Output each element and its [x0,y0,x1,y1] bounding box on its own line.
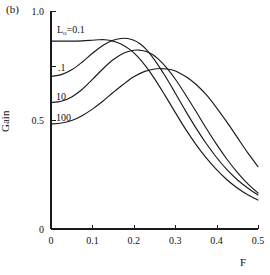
y-tick-label-0-5: 0.5 [22,115,44,126]
curve-label-l0-0-1: Lo=0.1 [57,24,85,37]
curve-label-10: 10 [56,91,66,102]
y-axis-ticks [51,12,56,121]
y-tick-label-0: 0 [26,224,44,235]
x-tick-label-0-2: 0.2 [128,235,141,246]
x-tick-label-0-3: 0.3 [169,235,182,246]
chart-series-group [51,38,258,200]
x-axis-title: F [240,256,246,268]
curve-label-point-1: .1 [58,62,66,73]
chart-series-line-0 [51,40,258,200]
figure-panel: (b) 0 0.5 1.0 0 0.1 0.2 0.3 0.4 0.5 F Ga… [0,0,270,275]
chart-series-line-3 [51,69,258,167]
x-tick-label-0: 0 [49,235,54,246]
x-tick-label-0-5: 0.5 [252,235,265,246]
x-tick-label-0-4: 0.4 [210,235,223,246]
chart-axes [51,11,258,229]
x-axis-ticks [93,225,259,229]
y-axis-title: Gain [0,111,11,132]
curve-label-suffix: =0.1 [67,24,85,35]
chart-series-line-1 [51,38,258,195]
y-tick-label-1-0: 1.0 [22,6,44,17]
curve-label-100: 100 [56,112,71,123]
x-tick-label-0-1: 0.1 [86,235,99,246]
